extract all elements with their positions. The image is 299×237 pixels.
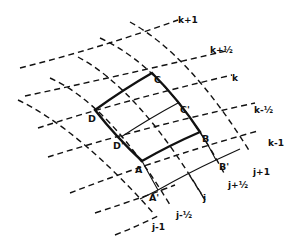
label-cprime: C' [180,104,190,115]
label-j: j [202,193,206,203]
label-k-minus-half: k-½ [254,105,273,115]
k-labels: k+1 k+½ k k-½ k-1 [178,15,284,148]
label-bprime: B' [219,161,229,172]
j-minus-1-line [18,100,155,215]
label-j-plus-1: j+1 [252,167,270,177]
grid-diagram: C C' D D' B A B' A' k+1 k+½ k k-½ k-1 j+… [0,0,299,237]
line-a-aprime [142,161,158,190]
j-plus-half-line [100,38,225,175]
label-d: D [88,113,96,124]
label-k-plus-half: k+½ [210,45,233,55]
label-j-minus-1: j-1 [151,222,165,232]
solid-thin-lines [121,103,240,200]
label-k: k [232,73,239,83]
line-dprime-cprime [121,103,178,137]
line-bprime-extend [216,149,240,160]
label-k-minus-1: k-1 [268,138,284,148]
label-aprime: A' [149,192,159,203]
k-minus-1-5-line [95,185,175,213]
label-j-plus-half: j+½ [227,180,248,190]
label-j-minus-half: j-½ [175,210,192,220]
k-plus-1-line [20,20,178,68]
label-a: A [135,164,143,175]
j-labels: j+1 j+½ j j-½ j-1 [151,167,270,232]
label-b: B [202,133,209,144]
j-plus-1-line [130,22,250,152]
label-dprime: D' [113,140,124,151]
k-minus-half-line [48,103,255,157]
label-k-plus-1: k+1 [178,15,198,25]
j-minus-half-line [50,78,170,205]
label-c: C [154,74,161,85]
line-aprime-bprime [158,160,216,190]
